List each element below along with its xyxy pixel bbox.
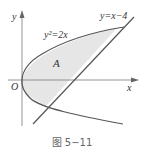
- x-axis-label: x: [126, 82, 132, 93]
- line-label: y=x−4: [99, 10, 127, 21]
- parabola-label: y²=2x: [43, 29, 68, 40]
- x-axis-arrow-icon: [131, 78, 139, 83]
- figure: y x O y²=2x y=x−4 A 图 5−11: [0, 0, 144, 152]
- y-axis-label: y: [11, 11, 17, 22]
- region-a-label: A: [52, 57, 60, 69]
- figure-caption: 图 5−11: [52, 137, 93, 148]
- diagram-canvas: y x O y²=2x y=x−4 A 图 5−11: [0, 0, 144, 152]
- y-axis-arrow-icon: [20, 10, 25, 18]
- region-a-fill: [22, 28, 118, 106]
- origin-label: O: [11, 81, 18, 92]
